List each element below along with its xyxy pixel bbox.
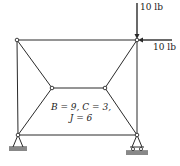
joint-inner-left — [50, 86, 54, 90]
joint-bottom-right — [135, 133, 139, 137]
roller-support — [126, 135, 148, 155]
truss-count-annotation: B = 9, C = 3, J = 6 — [46, 102, 116, 124]
horizontal-load-label: 10 lb — [153, 42, 176, 52]
joint-inner-right — [103, 86, 107, 90]
truss-diagram — [0, 0, 180, 166]
pin-support — [9, 135, 27, 151]
vertical-load-arrow — [135, 3, 140, 39]
truss-member — [17, 40, 18, 135]
truss-member — [17, 40, 52, 88]
truss-member — [105, 40, 137, 88]
joint-top-left — [15, 38, 19, 42]
joint-bottom-left — [16, 133, 20, 137]
vertical-load-label: 10 lb — [140, 2, 163, 12]
annotation-line-1: B = 9, C = 3, — [46, 102, 116, 113]
supports — [9, 135, 148, 155]
annotation-line-2: J = 6 — [46, 113, 116, 124]
joint-top-right — [135, 38, 139, 42]
